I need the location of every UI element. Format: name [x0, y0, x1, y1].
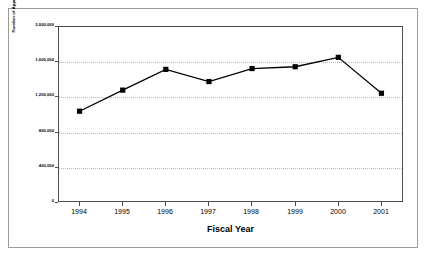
chart-figure: Number of Apprehensions 2,000,000 1,600,…	[0, 0, 428, 266]
series-markers	[77, 55, 384, 114]
data-series	[0, 0, 428, 266]
data-point-1995	[120, 88, 125, 93]
data-point-1994	[77, 109, 82, 114]
data-point-2001	[379, 91, 384, 96]
data-point-1999	[293, 64, 298, 69]
data-point-1998	[249, 66, 254, 71]
data-point-2000	[336, 55, 341, 60]
series-line	[80, 57, 382, 111]
data-point-1996	[163, 67, 168, 72]
data-point-1997	[206, 79, 211, 84]
